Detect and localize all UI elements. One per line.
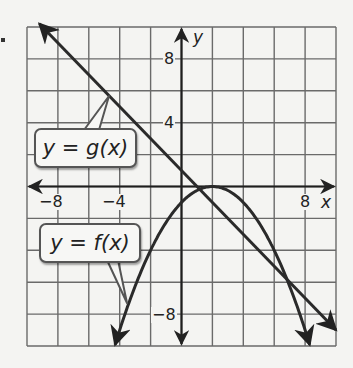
curves bbox=[39, 24, 336, 345]
axes bbox=[29, 29, 334, 344]
f-function-label: y = f(x) bbox=[39, 223, 141, 263]
x-tick-neg4: −4 bbox=[101, 194, 127, 210]
y-tick-8: 8 bbox=[163, 51, 175, 67]
y-axis-label: y bbox=[193, 29, 203, 46]
y-tick-neg8: −8 bbox=[151, 307, 177, 323]
x-tick-neg8: −8 bbox=[38, 194, 64, 210]
x-axis-label: x bbox=[321, 194, 331, 211]
g-function-label: y = g(x) bbox=[34, 128, 137, 168]
y-tick-4: 4 bbox=[163, 115, 175, 131]
x-tick-8: 8 bbox=[299, 194, 311, 210]
